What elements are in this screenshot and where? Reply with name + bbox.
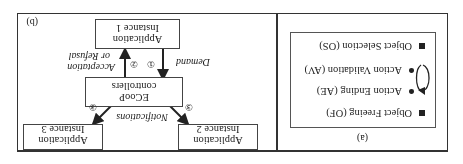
step-3-number-right: ③ (89, 102, 97, 112)
node-application-instance-1: ApplicationInstance 1 (95, 19, 180, 49)
demand-label: Demand (176, 57, 210, 67)
step-3-number-left: ③ (185, 102, 193, 112)
step-1-number: ① (147, 59, 155, 69)
figure: (a) Object Freeing (OF) Action Ending (A… (0, 0, 463, 164)
node-application-instance-2: ApplicationInstance 2 (178, 124, 258, 150)
step-2-number: ② (130, 59, 138, 69)
acceptation-label-2: or Refusal (69, 51, 110, 61)
acceptation-label-1: Acceptation (67, 62, 115, 72)
node-application-instance-3: ApplicationInstance 3 (23, 124, 103, 150)
node-ecoop-controllers: ECooPcontrollers (85, 77, 183, 107)
notifications-label: Notifications (116, 112, 168, 122)
